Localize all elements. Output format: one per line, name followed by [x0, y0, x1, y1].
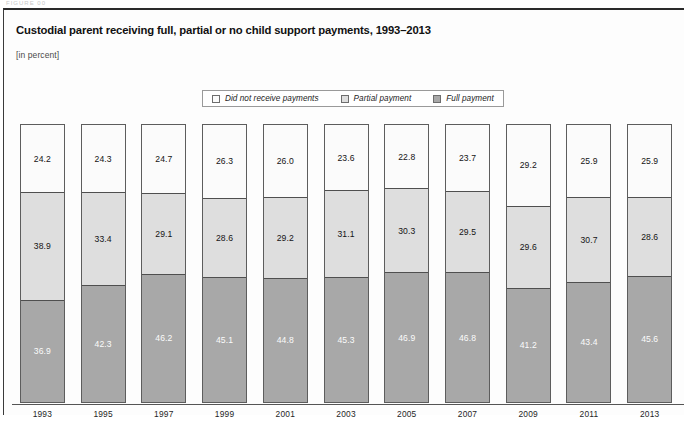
bar-segment-none-2013[interactable]: 25.9 — [628, 125, 671, 197]
chart-legend: Did not receive paymentsPartial paymentF… — [202, 90, 504, 107]
bar-value-label: 29.5 — [459, 227, 476, 237]
bar-segment-none-2011[interactable]: 25.9 — [567, 125, 610, 197]
bar-value-label: 42.3 — [95, 339, 112, 349]
bar-slot-2003: 23.631.145.3 — [316, 124, 377, 403]
bar-segment-full-2013[interactable]: 45.6 — [628, 276, 671, 402]
stacked-bar-2011[interactable]: 25.930.743.4 — [566, 124, 611, 403]
bar-value-label: 33.4 — [95, 234, 112, 244]
bar-segment-full-2001[interactable]: 44.8 — [264, 278, 307, 402]
bar-segment-none-2003[interactable]: 23.6 — [325, 125, 368, 190]
bar-segment-partial-1999[interactable]: 28.6 — [203, 198, 246, 277]
bar-value-label: 29.6 — [520, 242, 537, 252]
bar-slot-2009: 29.229.641.2 — [498, 124, 559, 403]
x-tick-2005: 2005 — [376, 406, 437, 421]
stacked-bar-2007[interactable]: 23.729.546.8 — [445, 124, 490, 403]
bar-segment-full-1993[interactable]: 36.9 — [21, 300, 64, 402]
bar-value-label: 36.9 — [34, 346, 51, 356]
stacked-bar-1997[interactable]: 24.729.146.2 — [141, 124, 186, 403]
bar-segment-none-1993[interactable]: 24.2 — [21, 125, 64, 192]
bar-segment-partial-2013[interactable]: 28.6 — [628, 197, 671, 276]
bar-slot-1995: 24.333.442.3 — [73, 124, 134, 403]
bar-value-label: 29.2 — [520, 160, 537, 170]
bar-value-label: 29.1 — [155, 229, 172, 239]
bar-segment-none-1999[interactable]: 26.3 — [203, 125, 246, 198]
bar-value-label: 41.2 — [520, 340, 537, 350]
plot-area: 24.238.936.924.333.442.324.729.146.226.3… — [12, 124, 680, 405]
chart-title: Custodial parent receiving full, partial… — [16, 24, 431, 36]
bar-segment-partial-2003[interactable]: 31.1 — [325, 190, 368, 276]
bar-value-label: 25.9 — [580, 156, 597, 166]
legend-label: Partial payment — [354, 94, 412, 103]
bar-value-label: 23.7 — [459, 153, 476, 163]
bar-slot-2007: 23.729.546.8 — [437, 124, 498, 403]
bar-slot-1999: 26.328.645.1 — [194, 124, 255, 403]
bar-segment-partial-2001[interactable]: 29.2 — [264, 197, 307, 278]
bar-segment-full-1999[interactable]: 45.1 — [203, 277, 246, 402]
bar-value-label: 31.1 — [337, 229, 354, 239]
stacked-bar-1995[interactable]: 24.333.442.3 — [81, 124, 126, 403]
bar-segment-none-1995[interactable]: 24.3 — [82, 125, 125, 192]
bar-segment-full-2005[interactable]: 46.9 — [385, 272, 428, 402]
legend-swatch-partial-icon — [341, 95, 349, 103]
bar-segment-partial-2005[interactable]: 30.3 — [385, 188, 428, 272]
bar-segment-none-2007[interactable]: 23.7 — [446, 125, 489, 191]
bar-value-label: 30.7 — [580, 235, 597, 245]
bar-segment-partial-1995[interactable]: 33.4 — [82, 192, 125, 285]
bar-segment-full-2011[interactable]: 43.4 — [567, 282, 610, 402]
bar-value-label: 22.8 — [398, 152, 415, 162]
bar-value-label: 44.8 — [277, 335, 294, 345]
stacked-bar-1999[interactable]: 26.328.645.1 — [202, 124, 247, 403]
bar-value-label: 38.9 — [34, 241, 51, 251]
bar-value-label: 43.4 — [580, 337, 597, 347]
bar-value-label: 26.0 — [277, 156, 294, 166]
bar-segment-partial-2011[interactable]: 30.7 — [567, 197, 610, 282]
stacked-bar-2003[interactable]: 23.631.145.3 — [324, 124, 369, 403]
bar-segment-partial-2007[interactable]: 29.5 — [446, 191, 489, 273]
bar-value-label: 28.6 — [641, 232, 658, 242]
bar-segment-none-2005[interactable]: 22.8 — [385, 125, 428, 188]
bar-value-label: 45.3 — [337, 335, 354, 345]
legend-item-full[interactable]: Full payment — [433, 94, 493, 103]
stacked-bar-2013[interactable]: 25.928.645.6 — [627, 124, 672, 403]
x-axis-tick-labels: 1993199519971999200120032005200720092011… — [12, 406, 680, 421]
chart-subtitle: [in percent] — [16, 50, 59, 60]
running-head: FIGURE 00 — [6, 0, 46, 6]
axis-baseline — [12, 404, 684, 405]
bar-segment-none-1997[interactable]: 24.7 — [142, 125, 185, 193]
bar-segment-partial-1993[interactable]: 38.9 — [21, 192, 64, 300]
figure-frame: Custodial parent receiving full, partial… — [3, 8, 684, 415]
bar-segment-none-2001[interactable]: 26.0 — [264, 125, 307, 197]
legend-label: Did not receive payments — [225, 94, 319, 103]
legend-item-none[interactable]: Did not receive payments — [212, 94, 319, 103]
bar-value-label: 23.6 — [337, 153, 354, 163]
bar-segment-full-2007[interactable]: 46.8 — [446, 272, 489, 402]
bar-value-label: 24.2 — [34, 154, 51, 164]
legend-swatch-none-icon — [212, 95, 220, 103]
stacked-bar-2009[interactable]: 29.229.641.2 — [506, 124, 551, 403]
x-tick-1999: 1999 — [194, 406, 255, 421]
bar-value-label: 46.8 — [459, 333, 476, 343]
bar-segment-full-1995[interactable]: 42.3 — [82, 285, 125, 402]
bar-value-label: 45.6 — [641, 334, 658, 344]
stacked-bar-2005[interactable]: 22.830.346.9 — [384, 124, 429, 403]
bar-segment-partial-2009[interactable]: 29.6 — [507, 206, 550, 288]
bar-segment-full-1997[interactable]: 46.2 — [142, 274, 185, 402]
bar-value-label: 24.7 — [155, 154, 172, 164]
bar-segment-none-2009[interactable]: 29.2 — [507, 125, 550, 206]
bar-slot-2005: 22.830.346.9 — [376, 124, 437, 403]
bar-segment-full-2009[interactable]: 41.2 — [507, 288, 550, 402]
bar-value-label: 25.9 — [641, 156, 658, 166]
legend-item-partial[interactable]: Partial payment — [341, 94, 412, 103]
bar-value-label: 28.6 — [216, 233, 233, 243]
legend-label: Full payment — [446, 94, 493, 103]
x-tick-2013: 2013 — [619, 406, 680, 421]
stacked-bar-2001[interactable]: 26.029.244.8 — [263, 124, 308, 403]
bar-segment-partial-1997[interactable]: 29.1 — [142, 193, 185, 274]
x-tick-2011: 2011 — [559, 406, 620, 421]
bar-slot-2001: 26.029.244.8 — [255, 124, 316, 403]
stacked-bar-1993[interactable]: 24.238.936.9 — [20, 124, 65, 403]
x-tick-2003: 2003 — [316, 406, 377, 421]
bar-value-label: 30.3 — [398, 226, 415, 236]
bar-slot-1997: 24.729.146.2 — [133, 124, 194, 403]
bar-segment-full-2003[interactable]: 45.3 — [325, 277, 368, 402]
